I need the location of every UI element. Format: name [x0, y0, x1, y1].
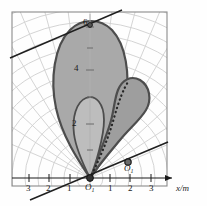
o1-label-subscript: 1 — [131, 168, 134, 174]
x-tick-label-3: 3 — [149, 184, 154, 193]
apex-point-marker — [88, 23, 93, 28]
origin-label-subscript: 1 — [92, 187, 95, 193]
y-tick-label-4: 4 — [74, 64, 79, 73]
x-axis-label: x/m — [176, 184, 189, 193]
o1-label: O1 — [124, 164, 134, 174]
x-tick-label-1: 1 — [108, 184, 113, 193]
plot-svg — [0, 0, 207, 206]
x-tick-label-minus3: 3 — [26, 184, 31, 193]
x-tick-label-minus1: 1 — [67, 184, 72, 193]
y-tick-label-2: 2 — [72, 119, 77, 128]
origin-point-marker — [87, 175, 94, 182]
y-tick-label-6: 6 — [83, 18, 88, 27]
origin-label: O1 — [85, 183, 95, 193]
x-tick-label-minus2: 2 — [46, 184, 51, 193]
x-axis-arrow-icon — [165, 175, 172, 181]
x-tick-label-2: 2 — [128, 184, 133, 193]
figure-canvas: 6 4 2 3 2 1 1 2 3 O1 O1 x/m — [0, 0, 207, 206]
